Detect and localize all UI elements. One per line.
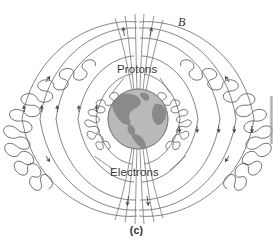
arrow-bottom-center-1: [127, 196, 128, 204]
electron-helix-left: [4, 60, 96, 191]
polar-line-n-6: [146, 20, 163, 91]
scan-edge-artifact: [269, 96, 273, 144]
leader-electrons-right: [170, 156, 186, 170]
electrons-label: Electrons: [110, 167, 159, 179]
polar-line-n-3: [135, 14, 137, 89]
polar-line-s-3: [135, 149, 137, 224]
electron-helix-right: [181, 60, 273, 191]
arrow-right-outer-1: [252, 126, 253, 131]
leader-protons-left: [112, 78, 124, 93]
polar-line-s-4: [140, 149, 144, 224]
magnetosphere-figure: B Protons Electrons (c): [0, 0, 273, 248]
arrow-left-outer-1: [24, 107, 25, 112]
polar-line-n-2: [125, 16, 134, 90]
earth-globe: [108, 89, 168, 150]
magnetic-field-label: B: [178, 16, 185, 28]
arrow-right-lower-diag: [226, 156, 229, 161]
arrow-top-center-1: [123, 29, 124, 36]
leader-protons-right: [160, 78, 170, 93]
arrow-bottom-center-2: [147, 196, 148, 204]
polar-line-s-6: [146, 147, 163, 218]
arrow-left-lower-diag: [46, 156, 49, 161]
polar-line-n-4: [140, 14, 144, 89]
figure-caption: (c): [0, 224, 273, 236]
polar-line-s-2: [125, 148, 134, 222]
protons-label: Protons: [117, 64, 157, 76]
field-diagram-svg: [0, 0, 273, 248]
